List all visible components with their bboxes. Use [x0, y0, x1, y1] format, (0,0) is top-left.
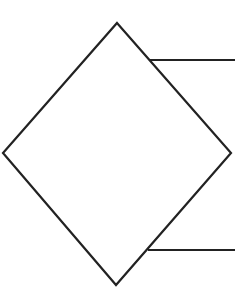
decision-diagram: [0, 0, 235, 287]
decision-diamond: [3, 23, 231, 285]
